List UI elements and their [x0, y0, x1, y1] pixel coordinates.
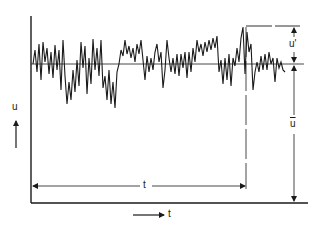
x-axis-label: t — [168, 209, 171, 219]
y-axis-label: u — [12, 102, 18, 112]
interval-label: t — [143, 180, 146, 190]
velocity-signal-trace — [33, 27, 285, 108]
mean-label: u — [290, 119, 296, 129]
turbulence-signal-diagram — [0, 0, 318, 225]
fluctuation-label: u' — [289, 39, 296, 49]
